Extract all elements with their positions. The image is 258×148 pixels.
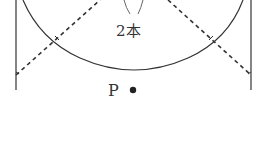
geometry-diagram: 2本 P <box>0 0 258 148</box>
brace-curve-right <box>138 0 143 14</box>
brace-curve-left <box>124 0 130 14</box>
point-label: P <box>108 81 119 100</box>
point-dot <box>130 87 136 93</box>
count-label: 2本 <box>116 22 141 40</box>
